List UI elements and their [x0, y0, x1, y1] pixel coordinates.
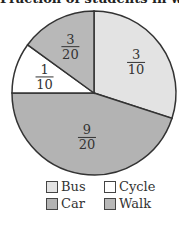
slice-label-num: 3 [132, 47, 140, 62]
legend-item-cycle: Cycle [104, 179, 168, 194]
legend-label-walk: Walk [119, 196, 151, 211]
swatch-walk [104, 198, 116, 210]
slice-label-den: 10 [36, 77, 53, 92]
slice-label-num: 3 [66, 32, 74, 47]
swatch-cycle [104, 181, 116, 193]
legend-item-bus: Bus [46, 179, 104, 194]
slice-label-num: 1 [40, 62, 48, 77]
legend-item-car: Car [46, 196, 104, 211]
slice-label-den: 20 [79, 137, 96, 152]
legend-item-walk: Walk [104, 196, 168, 211]
legend: Bus Cycle Car Walk [46, 178, 176, 212]
legend-label-cycle: Cycle [119, 179, 155, 194]
slice-label-den: 20 [62, 47, 79, 62]
slice-label-den: 10 [128, 62, 145, 77]
legend-label-bus: Bus [61, 179, 86, 194]
swatch-bus [46, 181, 58, 193]
swatch-car [46, 198, 58, 210]
slice-label-num: 9 [83, 122, 91, 137]
legend-label-car: Car [61, 196, 85, 211]
